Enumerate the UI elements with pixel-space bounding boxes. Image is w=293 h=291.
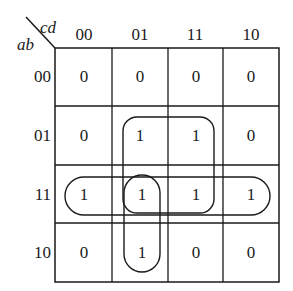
kmap-cell: 0 — [56, 107, 112, 165]
kmap-cell: 1 — [112, 107, 168, 165]
col-label: 00 — [56, 26, 112, 43]
kmap-cell: 1 — [114, 224, 170, 282]
row-label: 01 — [21, 127, 51, 144]
kmap-cell: 1 — [223, 166, 279, 224]
kmap-cell: 0 — [56, 224, 112, 282]
kmap-cell: 0 — [168, 48, 224, 106]
row-variable-label: ab — [17, 36, 34, 53]
kmap-cell: 0 — [223, 107, 279, 165]
col-label: 10 — [223, 26, 279, 43]
col-label: 11 — [167, 26, 223, 43]
kmap-cell: 0 — [56, 48, 112, 106]
kmap-cell: 0 — [112, 48, 168, 106]
row-label: 10 — [21, 244, 51, 261]
row-label: 11 — [21, 186, 51, 203]
row-label: 00 — [21, 68, 51, 85]
kmap-cell: 0 — [168, 224, 224, 282]
col-variable-label: cd — [40, 19, 56, 36]
kmap-cell: 0 — [223, 224, 279, 282]
kmap-cell: 1 — [168, 166, 224, 224]
kmap-cell: 1 — [114, 166, 170, 224]
kmap-cell: 0 — [223, 48, 279, 106]
kmap-cell: 1 — [168, 107, 224, 165]
kmap-cell: 1 — [56, 166, 112, 224]
col-label: 01 — [112, 26, 168, 43]
